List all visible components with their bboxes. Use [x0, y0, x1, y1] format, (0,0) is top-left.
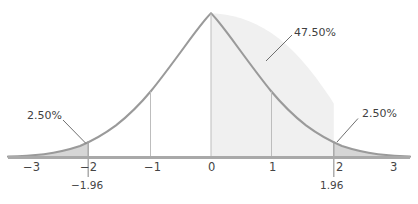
left-tail-shade	[8, 142, 88, 157]
x-tick-label-0: 0	[208, 162, 215, 174]
normal-curve	[8, 13, 410, 156]
x-tick-label-neg2: −2	[80, 162, 97, 174]
right-tail-percent-label: 2.50%	[362, 108, 397, 119]
x-tick-label-1: 1	[269, 162, 276, 174]
left-tail-percent-label: 2.50%	[27, 110, 62, 121]
right-annotation-leader	[337, 119, 358, 143]
x-tick-label-3: 3	[390, 162, 397, 174]
right-tail-shade	[334, 142, 410, 157]
normal-distribution-figure: −3 −2 −1 0 1 2 3 −1.96 1.96 2.50% 47.50%…	[0, 0, 418, 204]
critical-value-label-positive: 1.96	[320, 180, 343, 191]
x-tick-label-neg3: −3	[23, 162, 40, 174]
x-tick-label-neg1: −1	[144, 162, 161, 174]
center-area-percent-label: 47.50%	[294, 27, 336, 38]
x-tick-label-2: 2	[336, 162, 343, 174]
left-annotation-leader	[63, 120, 86, 144]
critical-value-label-negative: −1.96	[71, 180, 103, 191]
